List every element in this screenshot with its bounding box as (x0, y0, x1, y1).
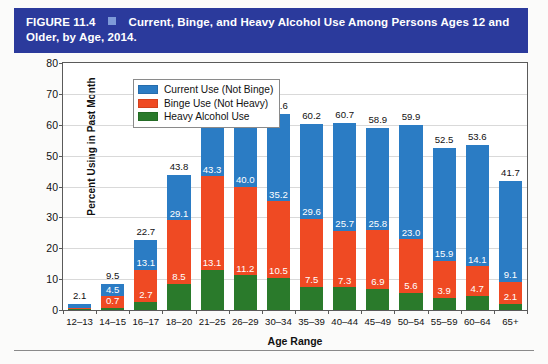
bar-segment-heavy[interactable] (101, 308, 124, 310)
bar-group[interactable]: 41.79.12.1 (499, 63, 522, 310)
bar-segment-heavy[interactable] (234, 275, 257, 310)
y-axis-tick-label: 10 (24, 273, 58, 285)
bar-binge-cumulative-label: 23.0 (402, 228, 421, 238)
bar-group[interactable]: 2.1 (68, 63, 91, 310)
x-axis-tick-label: 30–34 (265, 316, 292, 327)
bar-segment-current[interactable] (399, 125, 422, 239)
figure-bottom-rule (14, 350, 534, 351)
bar-group[interactable]: 60.229.67.5 (300, 63, 323, 310)
x-axis-tick-mark (162, 310, 163, 314)
x-axis-tick-label: 18–20 (166, 316, 193, 327)
chart-legend: Current Use (Not Binge) Binge Use (Not H… (133, 79, 280, 128)
x-axis-tick-label: 65+ (502, 316, 518, 327)
bar-heavy-label: 10.5 (269, 266, 288, 276)
x-axis-tick-label: 50–54 (398, 316, 425, 327)
y-axis-tick-mark (59, 63, 63, 64)
bar-segment-binge[interactable] (201, 176, 224, 269)
bar-total-label: 60.2 (302, 111, 321, 121)
y-axis-tick-label: 60 (24, 119, 58, 131)
bar-segment-current[interactable] (466, 145, 489, 267)
legend-label: Current Use (Not Binge) (164, 83, 273, 97)
bar-heavy-label: 2.1 (504, 292, 517, 302)
green-swatch-icon (138, 112, 158, 121)
bar-group[interactable]: 59.923.05.6 (399, 63, 422, 310)
figure-number: FIGURE 11.4 (26, 16, 96, 28)
x-axis-tick-mark (229, 310, 230, 314)
red-swatch-icon (138, 99, 158, 108)
bar-segment-heavy[interactable] (267, 278, 290, 310)
x-axis-tick-mark (96, 310, 97, 314)
bar-binge-cumulative-label: 35.2 (269, 190, 288, 200)
x-axis-tick-label: 40–44 (331, 316, 358, 327)
legend-item: Heavy Alcohol Use (138, 110, 273, 124)
bar-segment-heavy[interactable] (399, 293, 422, 310)
gridline (63, 217, 527, 218)
bar-segment-heavy[interactable] (134, 302, 157, 310)
bar-segment-heavy[interactable] (201, 270, 224, 310)
bar-total-label: 22.7 (137, 227, 156, 237)
legend-item: Binge Use (Not Heavy) (138, 97, 273, 111)
bar-binge-cumulative-label: 40.0 (236, 175, 255, 185)
x-axis-tick-mark (394, 310, 395, 314)
bar-group[interactable]: 53.614.14.7 (466, 63, 489, 310)
bar-binge-cumulative-label: 43.3 (203, 165, 222, 175)
x-axis-tick-label: 45–49 (365, 316, 392, 327)
y-axis-tick-label: 70 (24, 88, 58, 100)
bar-binge-cumulative-label: 29.1 (170, 209, 189, 219)
y-axis-tick-mark (59, 279, 63, 280)
bar-heavy-label: 6.9 (371, 277, 384, 287)
bar-segment-current[interactable] (499, 181, 522, 282)
y-axis-tick-mark (59, 248, 63, 249)
x-axis-tick-mark (494, 310, 495, 314)
bar-group[interactable]: 9.54.50.7 (101, 63, 124, 310)
bar-segment-heavy[interactable] (333, 287, 356, 310)
x-axis-tick-mark (428, 310, 429, 314)
bar-total-label: 58.9 (369, 115, 388, 125)
plot-frame: Percent Using in Past Month 010203040506… (62, 62, 528, 311)
y-axis-tick-mark (59, 94, 63, 95)
bar-binge-cumulative-label: 14.1 (468, 255, 487, 265)
y-axis-tick-mark (59, 156, 63, 157)
bar-segment-heavy[interactable] (68, 309, 91, 310)
bar-heavy-label: 8.5 (172, 272, 185, 282)
y-axis-tick-label: 0 (24, 304, 58, 316)
bar-segment-heavy[interactable] (300, 287, 323, 310)
bar-total-label: 9.5 (106, 271, 119, 281)
bar-segment-current[interactable] (433, 148, 456, 261)
blue-swatch-icon (138, 85, 158, 94)
x-axis-tick-mark (196, 310, 197, 314)
bar-group[interactable]: 58.925.86.9 (366, 63, 389, 310)
x-axis-tick-mark (527, 310, 528, 314)
x-axis-tick-mark (328, 310, 329, 314)
bar-group[interactable]: 52.515.93.9 (433, 63, 456, 310)
bar-segment-current[interactable] (366, 128, 389, 230)
y-axis-tick-label: 80 (24, 57, 58, 69)
x-axis-tick-label: 60–64 (464, 316, 491, 327)
x-axis-tick-mark (129, 310, 130, 314)
x-axis-tick-label: 16–17 (133, 316, 160, 327)
bar-segment-binge[interactable] (68, 308, 91, 309)
y-axis-tick-label: 30 (24, 211, 58, 223)
bar-segment-current[interactable] (333, 123, 356, 231)
bar-heavy-label: 3.9 (437, 286, 450, 296)
figure-container: FIGURE 11.4Current, Binge, and Heavy Alc… (0, 0, 548, 364)
gridline (63, 187, 527, 188)
bar-segment-current[interactable] (300, 124, 323, 218)
x-axis-tick-mark (361, 310, 362, 314)
bar-group[interactable]: 60.725.77.3 (333, 63, 356, 310)
x-axis-tick-label: 14–15 (99, 316, 126, 327)
bar-segment-heavy[interactable] (499, 304, 522, 310)
gridline (63, 248, 527, 249)
bar-segment-heavy[interactable] (433, 298, 456, 310)
figure-title: Current, Binge, and Heavy Alcohol Use Am… (26, 16, 509, 43)
bar-binge-cumulative-label: 4.5 (106, 285, 119, 295)
bar-segment-heavy[interactable] (366, 289, 389, 310)
bar-segment-heavy[interactable] (167, 284, 190, 310)
x-axis-tick-mark (262, 310, 263, 314)
bar-segment-current[interactable] (68, 304, 91, 308)
x-axis-tick-label: 26–29 (232, 316, 259, 327)
legend-label: Binge Use (Not Heavy) (164, 97, 268, 111)
bar-segment-heavy[interactable] (466, 296, 489, 311)
bar-total-label: 60.7 (335, 110, 354, 120)
bar-binge-cumulative-label: 25.7 (335, 219, 354, 229)
